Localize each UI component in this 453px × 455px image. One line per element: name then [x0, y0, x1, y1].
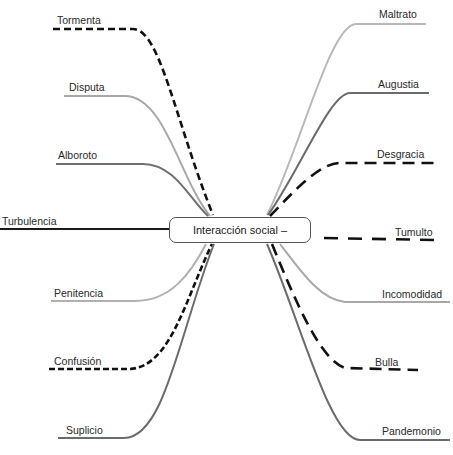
- branch-label-confusion: Confusión: [54, 355, 101, 367]
- connector-tormenta: [53, 29, 213, 215]
- connector-confusion: [49, 244, 212, 369]
- branch-label-penitencia: Penitencia: [54, 287, 103, 299]
- branch-label-augustia: Augustia: [378, 78, 419, 90]
- connector-suplicio: [58, 244, 214, 438]
- connector-maltrato: [267, 24, 426, 215]
- branch-label-disputa: Disputa: [69, 81, 105, 93]
- branch-label-suplicio: Suplicio: [66, 424, 103, 436]
- branch-label-tormenta: Tormenta: [57, 14, 101, 26]
- center-node[interactable]: Interacción social –: [169, 217, 311, 243]
- branch-label-turbulencia: Turbulencia: [2, 215, 56, 227]
- branch-label-bulla: Bulla: [375, 356, 398, 368]
- branch-label-pandemonio: Pandemonio: [382, 425, 441, 437]
- branch-label-alboroto: Alboroto: [58, 149, 97, 161]
- center-node-label: Interacción social –: [193, 224, 287, 236]
- connector-tumulto: [324, 238, 436, 240]
- branch-label-desgracia: Desgracia: [377, 148, 424, 160]
- branch-label-tumulto: Tumulto: [395, 226, 433, 238]
- connector-pandemonio: [267, 244, 450, 440]
- branch-label-incomodidad: Incomodidad: [382, 288, 442, 300]
- branch-label-maltrato: Maltrato: [379, 8, 417, 20]
